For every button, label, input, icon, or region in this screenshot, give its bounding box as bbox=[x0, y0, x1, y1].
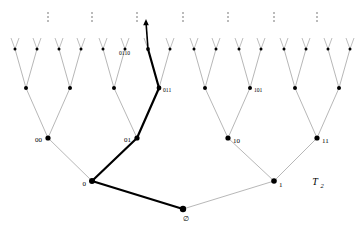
label-1: 1 bbox=[279, 181, 283, 189]
stub-r bbox=[239, 38, 243, 49]
stub-l bbox=[257, 38, 261, 49]
node-depth4 bbox=[193, 48, 196, 51]
node-101 bbox=[248, 86, 252, 90]
node-depth3 bbox=[112, 86, 116, 90]
edge-10-to-100 bbox=[205, 88, 228, 138]
node-01 bbox=[134, 135, 139, 140]
edge-00-to-000 bbox=[26, 88, 48, 138]
stub-l bbox=[121, 38, 125, 49]
node-0110 bbox=[146, 47, 150, 51]
label-10: 10 bbox=[233, 137, 241, 145]
stub-l bbox=[190, 38, 194, 49]
stub-r bbox=[59, 38, 63, 49]
node-10 bbox=[225, 135, 230, 140]
node-depth3 bbox=[293, 86, 297, 90]
node-depth3 bbox=[203, 86, 207, 90]
stub-r bbox=[328, 38, 332, 49]
node-depth4 bbox=[58, 48, 61, 51]
edge-1-to-11 bbox=[274, 138, 317, 181]
node-11 bbox=[314, 135, 319, 140]
stub-l bbox=[280, 38, 284, 49]
node-depth4 bbox=[305, 48, 308, 51]
node-depth4 bbox=[260, 48, 263, 51]
bold-edge-root-to-0 bbox=[92, 181, 183, 209]
node-depth3 bbox=[24, 86, 28, 90]
stub-l bbox=[99, 38, 103, 49]
edge-11-to-110 bbox=[295, 88, 317, 138]
node-depth3 bbox=[337, 86, 341, 90]
label-01: 01 bbox=[124, 136, 132, 144]
node-depth4 bbox=[102, 48, 105, 51]
bold-edge-01-to-011 bbox=[137, 88, 159, 138]
stub-l bbox=[346, 38, 350, 49]
edge-01-to-010 bbox=[114, 88, 137, 138]
edge-001-to-0011 bbox=[70, 49, 81, 88]
edge-000-to-0001 bbox=[26, 49, 37, 88]
path-arrowhead-icon bbox=[143, 19, 149, 25]
ellipsis-mark bbox=[182, 12, 184, 22]
node-depth4 bbox=[215, 48, 218, 51]
node-depth4 bbox=[36, 48, 39, 51]
edge-0-to-00 bbox=[48, 138, 92, 181]
node-depth4 bbox=[80, 48, 83, 51]
label-00: 00 bbox=[35, 136, 43, 144]
node-depth4 bbox=[238, 48, 241, 51]
label-root-empty-set: ∅ bbox=[183, 215, 189, 223]
stub-l bbox=[11, 38, 15, 49]
bold-edge-0-to-01 bbox=[92, 138, 137, 181]
edge-111-to-1111 bbox=[339, 49, 350, 88]
node-depth4 bbox=[169, 48, 172, 51]
edge-00-to-001 bbox=[48, 88, 70, 138]
stub-l bbox=[302, 38, 306, 49]
label-101: 101 bbox=[254, 87, 263, 93]
edge-11-to-111 bbox=[317, 88, 339, 138]
ellipsis-mark bbox=[316, 12, 318, 22]
node-depth3 bbox=[68, 86, 72, 90]
tree-nodes bbox=[14, 47, 352, 212]
edge-011-to-0111 bbox=[159, 49, 170, 88]
ellipsis-mark bbox=[47, 12, 49, 22]
stub-l bbox=[324, 38, 328, 49]
ellipsis-mark bbox=[136, 12, 138, 22]
node-0 bbox=[89, 178, 95, 184]
node-root-empty-string bbox=[180, 206, 186, 212]
edge-111-to-1110 bbox=[328, 49, 339, 88]
node-depth4 bbox=[14, 48, 17, 51]
ellipsis-mark bbox=[273, 12, 275, 22]
stub-r bbox=[216, 38, 220, 49]
tree-name-letter: T bbox=[312, 176, 319, 187]
edge-101-to-1011 bbox=[250, 49, 261, 88]
leaf-stubs bbox=[11, 38, 354, 49]
edge-000-to-0000 bbox=[15, 49, 26, 88]
tree-name-label: T 2 bbox=[312, 176, 324, 189]
binary-tree-figure: 0110 011 101 00 01 10 11 0 1 ∅ T 2 bbox=[0, 0, 359, 232]
edges-level-0-1 bbox=[183, 181, 274, 209]
node-00 bbox=[45, 135, 50, 140]
node-011 bbox=[157, 86, 162, 91]
bold-edge-011-to-0110 bbox=[148, 49, 159, 88]
label-0110: 0110 bbox=[119, 50, 130, 56]
edge-010-to-0100 bbox=[103, 49, 114, 88]
stub-l bbox=[212, 38, 216, 49]
stub-r bbox=[15, 38, 19, 49]
node-depth4 bbox=[283, 48, 286, 51]
edges-level-1-2 bbox=[48, 138, 317, 181]
stub-l bbox=[77, 38, 81, 49]
ellipsis-mark bbox=[227, 12, 229, 22]
stub-r bbox=[170, 38, 174, 49]
ellipsis-mark bbox=[91, 12, 93, 22]
label-0: 0 bbox=[83, 180, 87, 188]
node-depth4 bbox=[349, 48, 352, 51]
stub-l bbox=[166, 38, 170, 49]
stub-r bbox=[194, 38, 198, 49]
stub-r bbox=[306, 38, 310, 49]
tree-name-subscript: 2 bbox=[320, 182, 324, 189]
node-depth4 bbox=[327, 48, 330, 51]
edge-root-to-1 bbox=[183, 181, 274, 209]
stub-l bbox=[235, 38, 239, 49]
stub-l bbox=[33, 38, 37, 49]
edge-10-to-101 bbox=[228, 88, 250, 138]
stub-r bbox=[103, 38, 107, 49]
node-1 bbox=[271, 178, 277, 184]
edge-001-to-0010 bbox=[59, 49, 70, 88]
